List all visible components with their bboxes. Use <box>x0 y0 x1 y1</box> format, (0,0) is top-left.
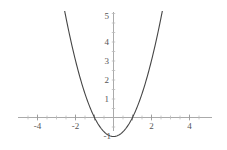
x-tick-label-4: 4 <box>187 121 192 131</box>
x-tick-label--4: -4 <box>34 121 42 131</box>
y-tick-label-1: 1 <box>105 94 110 104</box>
x-tick-label--2: -2 <box>72 121 80 131</box>
parabola-plot-figure: -4 -2 2 4 1 2 3 4 5 -1 <box>0 0 227 150</box>
x-tick-label-2: 2 <box>149 121 154 131</box>
y-tick-label-2: 2 <box>105 75 110 85</box>
plot-canvas: -4 -2 2 4 1 2 3 4 5 -1 <box>0 0 227 150</box>
top-clip-mask <box>0 0 227 11</box>
y-tick-label-3: 3 <box>105 56 110 66</box>
y-tick-label-5: 5 <box>105 11 110 21</box>
y-tick-label-4: 4 <box>105 37 110 47</box>
y-tick-label--1: -1 <box>104 131 112 141</box>
